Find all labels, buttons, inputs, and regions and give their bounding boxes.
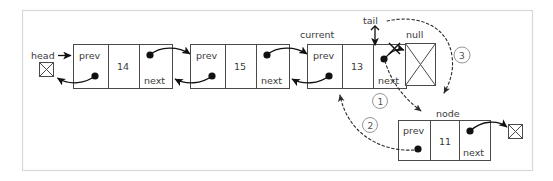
node-14-value: 14 [117, 61, 129, 72]
node-14-next-label: next [144, 75, 165, 86]
node-15-value: 15 [234, 61, 246, 72]
node-14-prev-label: prev [79, 50, 101, 61]
node-11-next-label: next [463, 147, 484, 158]
step-3-number: 3 [459, 51, 465, 61]
node-11-value: 11 [439, 136, 451, 147]
linked-list-diagram: head prev 14 next prev 15 [0, 0, 553, 181]
tail-null-box [509, 125, 523, 139]
node-11-prev-label: prev [403, 125, 425, 136]
step-2-number: 2 [368, 121, 374, 131]
node-15-prev-label: prev [196, 50, 218, 61]
tail-label: tail [363, 15, 378, 26]
step-3-badge: 3 [454, 47, 470, 63]
node-15-next-label: next [261, 75, 282, 86]
null-box [406, 44, 436, 86]
diagram-canvas: head prev 14 next prev 15 [0, 0, 553, 181]
head-null-box [40, 63, 54, 77]
node-label: node [436, 108, 460, 119]
head-label: head [31, 50, 55, 61]
node-11-prev-dot [414, 145, 421, 152]
null-label: null [406, 29, 423, 40]
tail-arrow [371, 26, 379, 45]
current-label: current [300, 29, 335, 40]
step-1-number: 1 [378, 97, 384, 107]
step-2-badge: 2 [363, 118, 378, 133]
node-13-value: 13 [351, 61, 363, 72]
step-1-badge: 1 [373, 94, 388, 109]
node-13-prev-label: prev [313, 50, 335, 61]
